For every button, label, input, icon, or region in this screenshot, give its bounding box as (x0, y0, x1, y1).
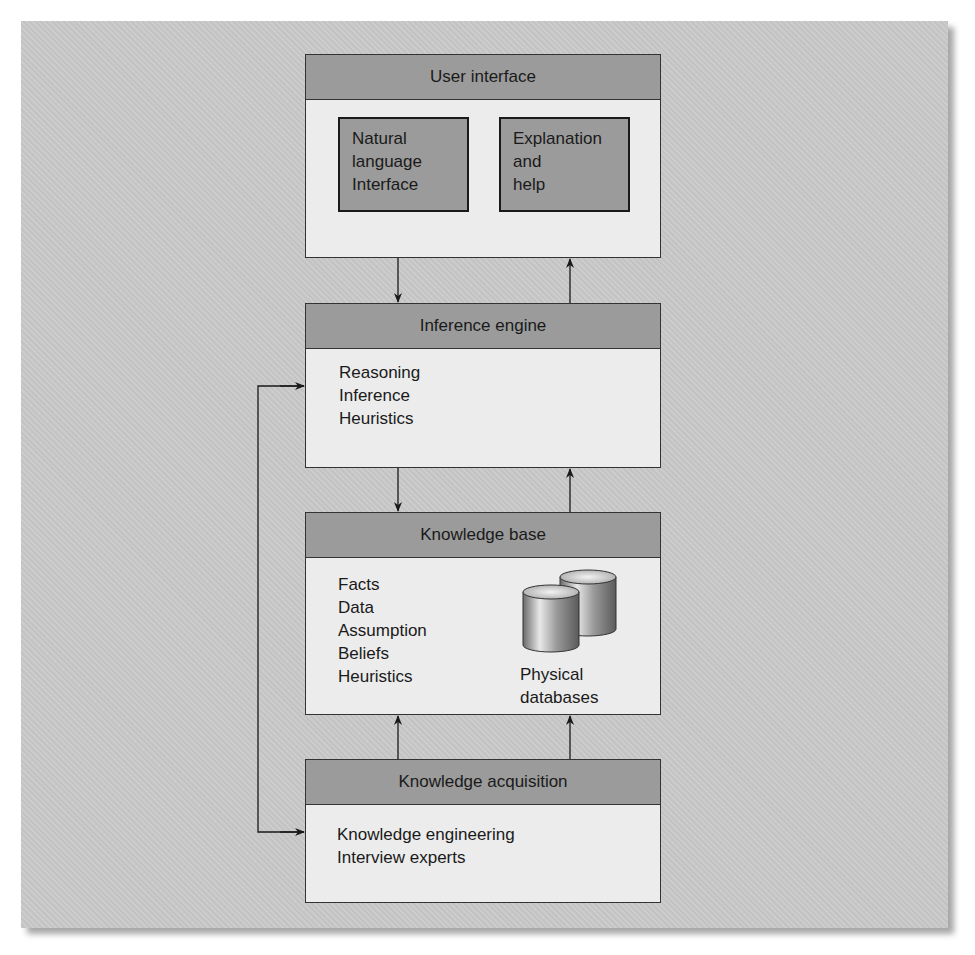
feedback-loop-line (258, 386, 304, 832)
connection-arrows (0, 0, 975, 955)
